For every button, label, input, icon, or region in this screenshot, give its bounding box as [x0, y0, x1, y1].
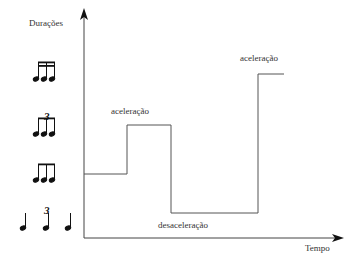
y-axis-label: Durações: [29, 18, 63, 28]
eighth-notes-icon: [33, 164, 56, 183]
eighth-triplet-icon: 3: [33, 110, 56, 137]
duration-step-line: [84, 74, 284, 213]
x-axis-label: Tempo: [305, 243, 330, 253]
annotation-first-acceleration: aceleração: [111, 106, 149, 116]
annotation-deceleration: desaceleração: [158, 220, 208, 230]
sixteenth-notes-icon: [33, 62, 56, 82]
quarter-triplet-icon: 3: [20, 204, 72, 231]
annotation-second-acceleration: aceleração: [240, 53, 278, 63]
